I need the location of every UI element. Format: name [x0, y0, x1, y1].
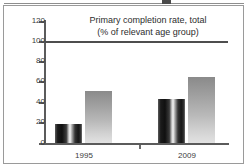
y-tick-label-0: 0	[19, 139, 45, 147]
bar-2009-series-1	[158, 99, 185, 143]
x-axis-mid-tick	[139, 145, 141, 149]
chart-title-block: Primary completion rate, total (% of rel…	[62, 14, 234, 38]
y-tick-label-100: 100	[19, 37, 45, 45]
chart-figure: Primary completion rate, total (% of rel…	[0, 0, 248, 166]
x-axis-line	[44, 143, 229, 145]
y-tick-label-60: 60	[19, 77, 45, 85]
reference-line-100	[45, 41, 228, 43]
y-tick-label-80: 80	[19, 57, 45, 65]
plot-area: Primary completion rate, total (% of rel…	[0, 0, 248, 166]
bar-1995-series-2	[85, 91, 112, 143]
x-axis-label-1995: 1995	[63, 151, 105, 160]
chart-subtitle: (% of relevant age group)	[62, 26, 234, 38]
bar-1995-series-1	[55, 124, 82, 143]
y-tick-label-40: 40	[19, 98, 45, 106]
x-axis-label-2009: 2009	[166, 151, 208, 160]
y-tick-label-20: 20	[19, 118, 45, 126]
bar-2009-series-2	[188, 77, 215, 143]
y-tick-label-120: 120	[19, 17, 45, 25]
chart-title: Primary completion rate, total	[62, 14, 234, 26]
